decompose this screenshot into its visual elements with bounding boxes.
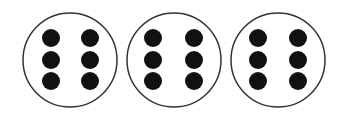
group-circle (231, 13, 325, 107)
dot (185, 51, 203, 69)
dot (42, 29, 60, 47)
dot-group-2 (127, 13, 221, 107)
dot (289, 72, 307, 90)
dot (81, 29, 99, 47)
dot (185, 29, 203, 47)
dot (289, 29, 307, 47)
dot (144, 29, 162, 47)
dot (289, 51, 307, 69)
dot (42, 72, 60, 90)
dot (81, 51, 99, 69)
dot (249, 29, 267, 47)
group-circle (127, 13, 221, 107)
dot (42, 51, 60, 69)
dot (144, 51, 162, 69)
dot-groups-diagram (0, 0, 337, 120)
dot-group-3 (231, 13, 325, 107)
dot (249, 51, 267, 69)
dot (249, 72, 267, 90)
dot-group-1 (23, 13, 117, 107)
dot (144, 72, 162, 90)
dot (185, 72, 203, 90)
dot (81, 72, 99, 90)
group-circle (23, 13, 117, 107)
